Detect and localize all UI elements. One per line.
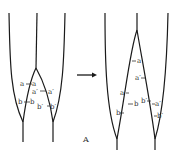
label-ap-left: a′ (32, 88, 38, 96)
label-bp-right: b′ (50, 103, 56, 111)
label-ap-upper: a′ (135, 74, 141, 82)
left-panel: a a a′ a′ b b b′ b′ (9, 13, 65, 142)
label-b-left: b (18, 98, 23, 106)
right-outer-right-strand (155, 13, 168, 139)
label-a-left: a (20, 80, 24, 88)
label-b-lower: b (116, 109, 121, 117)
label-bp-left: b′ (37, 103, 43, 111)
label-ap-lower: a′ (155, 100, 161, 108)
label-b-upper: b (134, 100, 139, 108)
left-center-strand (36, 13, 37, 68)
figure-caption: A (82, 135, 89, 144)
label-a-lower: a (120, 89, 124, 97)
label-a-upper: a (137, 57, 141, 65)
chromosome-diagram: a a a′ a′ b b b′ b′ A a a′ a b b b′ (0, 0, 174, 165)
label-bp-lower: b′ (157, 112, 163, 120)
label-b-right: b (30, 98, 35, 106)
transition-arrow (77, 73, 97, 78)
right-inner-left-branch (117, 30, 137, 139)
right-inner-right-branch (137, 30, 155, 139)
right-outer-strand (105, 13, 117, 139)
label-a-right: a (32, 80, 36, 88)
label-ap-right: a′ (48, 88, 54, 96)
right-panel: a a′ a b b b′ a′ b′ (105, 13, 168, 150)
arrow-right-icon (92, 73, 97, 78)
label-bp-mid: b′ (141, 97, 147, 105)
